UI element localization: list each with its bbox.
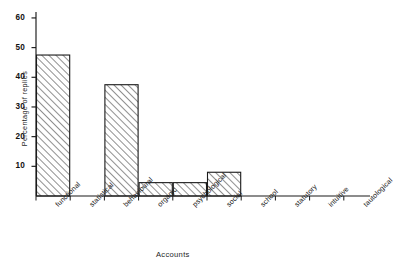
axis-lines xyxy=(32,12,371,201)
bar-social xyxy=(208,172,241,196)
bar-psychological xyxy=(173,183,206,196)
bars-group xyxy=(37,55,241,196)
bar-organic xyxy=(139,183,172,196)
bar-behavioural xyxy=(105,85,138,196)
bar-functional xyxy=(37,55,70,196)
